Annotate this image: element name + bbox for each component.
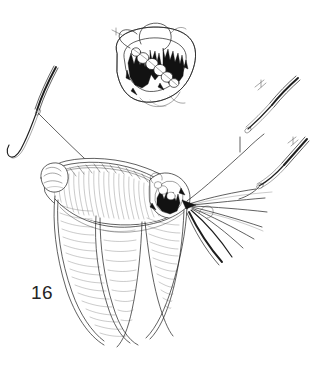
figure-illustration: 16 bbox=[0, 0, 317, 365]
graft-left-end bbox=[41, 163, 68, 192]
cross-section-inset bbox=[112, 23, 196, 106]
surgical-illustration-svg bbox=[0, 0, 317, 365]
suture-thread-fan bbox=[182, 192, 272, 265]
figure-number: 16 bbox=[31, 282, 53, 304]
suture-thread-right-upper bbox=[187, 134, 264, 201]
needle-left bbox=[7, 66, 58, 158]
